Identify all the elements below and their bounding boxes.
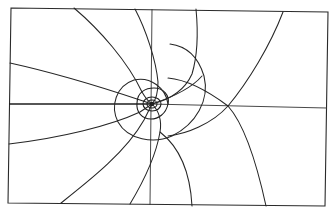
line-right-arc bbox=[168, 78, 266, 206]
line-bottom-right bbox=[160, 132, 192, 206]
line-bottom-left bbox=[61, 104, 152, 203]
line-top-left-1 bbox=[74, 8, 152, 104]
field-line-diagram bbox=[0, 0, 334, 213]
line-top-mid bbox=[152, 9, 197, 104]
line-left-upper bbox=[10, 63, 152, 104]
line-top-right bbox=[168, 12, 283, 136]
field-curves bbox=[9, 8, 283, 206]
spiral-large bbox=[115, 44, 206, 140]
horizontal-axis-right bbox=[150, 104, 327, 108]
line-bottom-mid bbox=[130, 104, 161, 204]
line-left-lower bbox=[9, 104, 152, 144]
diagram-canvas bbox=[0, 0, 334, 213]
